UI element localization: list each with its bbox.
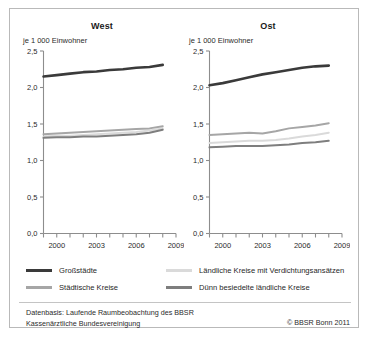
svg-text:2006: 2006 bbox=[128, 241, 145, 250]
footer-divider bbox=[19, 302, 351, 303]
svg-text:1,5: 1,5 bbox=[27, 120, 37, 129]
svg-text:0,5: 0,5 bbox=[27, 193, 37, 202]
copyright-notice: © BBSR Bonn 2011 bbox=[287, 318, 350, 327]
legend-label-grossstaedte: Großstädte bbox=[59, 267, 97, 275]
legend-swatch-duenn-besiedelt bbox=[166, 286, 192, 289]
plot-area-west: 0,00,51,01,52,02,52000200320062009 bbox=[18, 47, 184, 259]
svg-text:2,5: 2,5 bbox=[193, 47, 203, 56]
panel-title-west: West bbox=[22, 21, 182, 31]
svg-text:1,0: 1,0 bbox=[193, 156, 203, 165]
svg-text:2006: 2006 bbox=[294, 241, 311, 250]
legend-swatch-grossstaedte bbox=[26, 269, 52, 273]
footer-datenbasis: Datenbasis: Laufende Raumbeobachtung des… bbox=[26, 308, 350, 319]
svg-text:0,5: 0,5 bbox=[193, 193, 203, 202]
svg-text:0,0: 0,0 bbox=[193, 229, 203, 238]
legend-label-duenn-besiedelt: Dünn besiedelte ländliche Kreise bbox=[199, 284, 310, 292]
svg-text:0,0: 0,0 bbox=[27, 229, 37, 238]
unit-label-ost: je 1 000 Einwohner bbox=[189, 36, 253, 45]
legend-item-laendliche-verdichtung[interactable]: Ländliche Kreise mit Verdichtungsansätze… bbox=[166, 267, 344, 275]
plot-area-ost: 0,00,51,01,52,02,52000200320062009 bbox=[184, 47, 350, 259]
svg-text:2009: 2009 bbox=[334, 241, 350, 250]
chart-footer: Datenbasis: Laufende Raumbeobachtung des… bbox=[26, 308, 350, 329]
svg-text:2000: 2000 bbox=[48, 241, 65, 250]
legend-swatch-staedtische-kreise bbox=[26, 286, 52, 289]
svg-text:2,0: 2,0 bbox=[27, 83, 37, 92]
legend-item-staedtische-kreise[interactable]: Städtische Kreise bbox=[26, 284, 118, 292]
legend-label-staedtische-kreise: Städtische Kreise bbox=[59, 284, 118, 292]
chart-legend: Großstädte Ländliche Kreise mit Verdicht… bbox=[26, 263, 348, 297]
svg-text:2,0: 2,0 bbox=[193, 83, 203, 92]
svg-text:2009: 2009 bbox=[168, 241, 184, 250]
svg-text:1,5: 1,5 bbox=[193, 120, 203, 129]
svg-text:2000: 2000 bbox=[214, 241, 231, 250]
svg-text:2003: 2003 bbox=[254, 241, 271, 250]
svg-text:1,0: 1,0 bbox=[27, 156, 37, 165]
svg-text:2,5: 2,5 bbox=[27, 47, 37, 56]
svg-text:2003: 2003 bbox=[88, 241, 105, 250]
panel-title-ost: Ost bbox=[188, 21, 348, 31]
legend-item-grossstaedte[interactable]: Großstädte bbox=[26, 267, 97, 275]
chart-figure: West Ost je 1 000 Einwohner je 1 000 Ein… bbox=[9, 8, 359, 328]
legend-swatch-laendliche-verdichtung bbox=[166, 269, 192, 272]
unit-label-west: je 1 000 Einwohner bbox=[23, 36, 87, 45]
legend-label-laendliche-verdichtung: Ländliche Kreise mit Verdichtungsansätze… bbox=[199, 267, 344, 275]
legend-item-duenn-besiedelt[interactable]: Dünn besiedelte ländliche Kreise bbox=[166, 284, 310, 292]
